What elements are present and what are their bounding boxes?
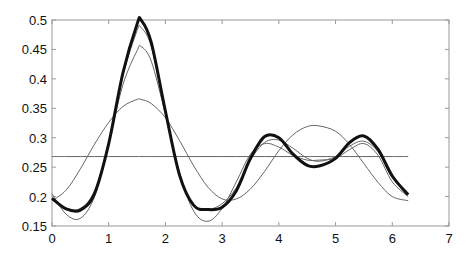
x-tick-label: 3	[219, 231, 226, 246]
x-tick-label: 6	[389, 231, 396, 246]
x-tick-label: 7	[445, 231, 452, 246]
y-tick-label: 0.35	[22, 101, 47, 116]
x-tick-label: 4	[275, 231, 282, 246]
y-tick-label: 0.3	[29, 131, 47, 146]
x-tick-label: 1	[105, 231, 112, 246]
x-tick-label: 5	[332, 231, 339, 246]
y-tick-label: 0.5	[29, 13, 47, 28]
y-tick-label: 0.2	[29, 190, 47, 205]
x-tick-label: 0	[48, 231, 55, 246]
y-tick-label: 0.15	[22, 219, 47, 234]
y-tick-label: 0.45	[22, 42, 47, 57]
x-tick-label: 2	[162, 231, 169, 246]
y-tick-label: 0.4	[29, 72, 47, 87]
chart: 01234567 0.150.20.250.30.350.40.450.5	[0, 0, 472, 259]
y-tick-label: 0.25	[22, 160, 47, 175]
